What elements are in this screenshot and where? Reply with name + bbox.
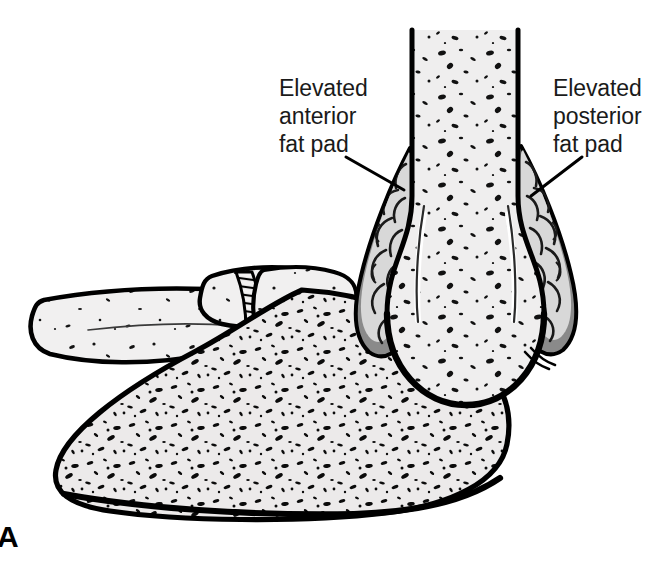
panel-letter-a: A bbox=[0, 522, 19, 552]
humerus-structure bbox=[387, 30, 544, 405]
elbow-fat-pad-figure: Elevated anterior fat pad Elevated poste… bbox=[0, 0, 657, 562]
label-elevated-anterior-fat-pad: Elevated anterior fat pad bbox=[279, 74, 368, 158]
label-elevated-posterior-fat-pad: Elevated posterior fat pad bbox=[553, 74, 642, 158]
